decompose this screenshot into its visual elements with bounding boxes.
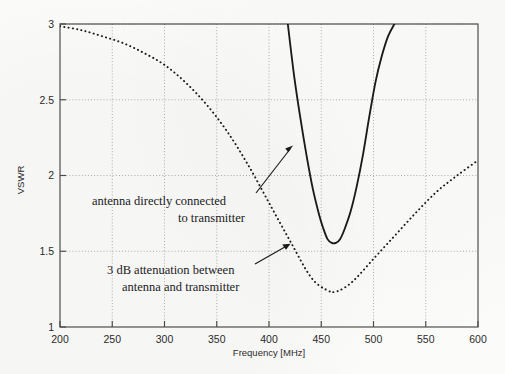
y-tick-label-3: 3 [48, 18, 54, 30]
y-tick-label-1.5: 1.5 [39, 245, 54, 257]
x-tick-label-350: 350 [208, 333, 226, 345]
y-tick-label-1: 1 [48, 321, 54, 333]
figure-background [0, 0, 505, 374]
x-tick-label-400: 400 [260, 333, 278, 345]
annotation-attenuated-line-2: antenna and transmitter [122, 280, 240, 294]
y-tick-label-2: 2 [48, 169, 54, 181]
x-tick-label-250: 250 [103, 333, 121, 345]
annotation-attenuated-line-1: 3 dB attenuation between [107, 263, 235, 277]
x-tick-label-450: 450 [312, 333, 330, 345]
annotation-direct-line-2: to transmitter [178, 211, 246, 225]
y-axis-title: VSWR [15, 166, 26, 195]
x-tick-label-300: 300 [156, 333, 174, 345]
x-tick-label-500: 500 [365, 333, 383, 345]
chart-svg: 1 1.5 2 2.5 3 200 250 300 350 400 450 50… [0, 0, 505, 374]
x-tick-label-600: 600 [469, 333, 487, 345]
x-tick-label-200: 200 [51, 333, 69, 345]
y-tick-label-2.5: 2.5 [39, 94, 54, 106]
annotation-direct-line-1: antenna directly connected [92, 194, 227, 208]
x-axis-title: Frequency [MHz] [233, 347, 305, 358]
x-tick-labels: 200 250 300 350 400 450 500 550 600 [51, 333, 487, 345]
x-tick-label-550: 550 [417, 333, 435, 345]
vswr-chart-figure: 1 1.5 2 2.5 3 200 250 300 350 400 450 50… [0, 0, 505, 374]
